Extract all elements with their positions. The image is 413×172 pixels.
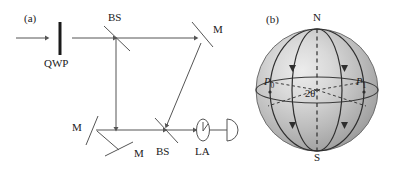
label-angle-two-theta: 2θ [305,89,315,100]
bloch-sphere-graphic [256,29,378,151]
lens-analyzer-icon [197,119,210,141]
label-point-p0: P0 [264,77,274,90]
point-p1-marker [362,90,365,93]
mirror-top-right-icon [192,22,213,47]
label-la: LA [195,146,210,157]
label-mirror-top-right: M [213,24,223,35]
label-north-pole: N [313,12,321,23]
label-mirror-bottom: M [134,148,144,159]
point-p1-subscript: 1 [362,81,366,90]
beam-mirror-top-to-bs2 [166,43,201,127]
point-p0-marker [268,90,271,93]
panel-a-tag: (a) [24,13,36,24]
label-bs2: BS [156,146,169,157]
interferometer-optical-path [16,38,227,130]
label-south-pole: S [314,152,320,163]
label-qwp: QWP [44,58,68,69]
point-p0-subscript: 0 [270,81,274,90]
photodetector-icon [227,119,238,141]
beam-mirror-bl-to-mb [97,131,119,150]
panel-b-tag: (b) [266,14,279,25]
label-mirror-bottom-left: M [72,122,82,133]
label-point-p1: P1 [356,77,366,90]
label-bs1: BS [108,12,121,23]
mirror-bottom-icon [105,142,133,156]
